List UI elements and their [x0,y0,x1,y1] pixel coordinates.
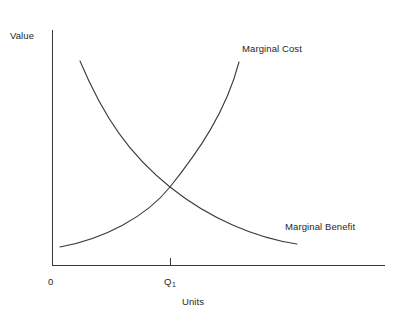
q1-tick-label-subscript: 1 [172,281,176,288]
q1-tick-label: Q1 [164,277,176,287]
y-axis-title: Value [10,31,34,41]
chart-canvas [0,0,398,319]
q1-tick-label-base: Q [164,276,172,287]
marginal-cost-label: Marginal Cost [242,44,302,54]
origin-label: 0 [48,277,53,287]
marginal-benefit-curve [80,61,297,244]
x-axis-title: Units [182,297,204,307]
marginal-cost-curve [60,62,239,247]
marginal-benefit-label: Marginal Benefit [285,222,355,232]
chart-container: Value 0 Q1 Units Marginal Cost Marginal … [0,0,398,319]
